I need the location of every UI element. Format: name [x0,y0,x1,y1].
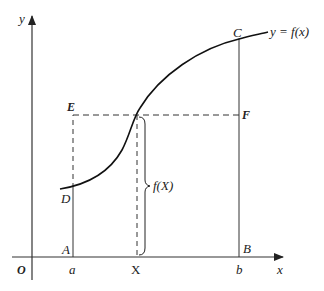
tick-label-X: X [131,262,141,277]
point-label-E: E [66,100,75,114]
y-axis-label: y [17,11,25,26]
brace-label: f(X) [153,178,173,193]
x-axis-label: x [276,262,283,277]
curve-f-of-x [60,32,268,189]
curve-label: y = f(x) [268,24,309,39]
function-graph-diagram: y x O E F C D A B y = f(x) a X b f(X) [0,0,324,291]
point-label-D: D [60,191,71,206]
point-label-C: C [233,25,242,40]
point-label-A: A [61,242,70,257]
brace-f-of-X [139,117,150,255]
point-label-F: F [241,108,250,122]
origin-label: O [17,263,26,277]
tick-label-b: b [236,262,243,277]
tick-label-a: a [69,262,76,277]
point-label-B: B [243,241,251,256]
brace-label-text: f(X) [153,178,173,193]
